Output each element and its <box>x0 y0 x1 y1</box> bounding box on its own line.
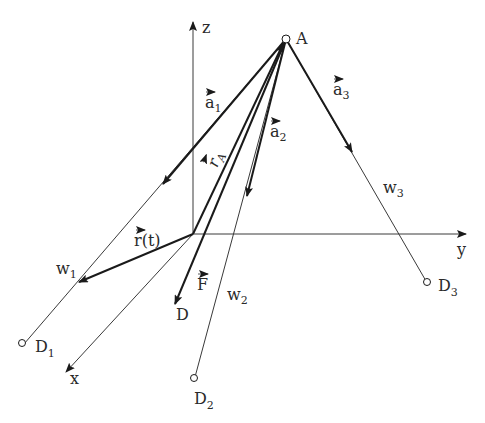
labels: z y x A D D1 D2 D3 a1 a2 a3 rA r(t) F <box>35 18 466 412</box>
svg-text:a1: a1 <box>205 93 222 115</box>
cable-w2 <box>195 39 286 377</box>
x-axis-label: x <box>70 369 79 388</box>
point-D1-circle <box>19 340 26 347</box>
axes <box>66 22 466 372</box>
point-A-label: A <box>295 29 308 48</box>
point-D-label: D <box>176 305 189 324</box>
label-w2: w2 <box>227 285 248 307</box>
z-axis-label: z <box>202 18 210 37</box>
point-D2-label: D2 <box>194 389 214 412</box>
label-r-t: r(t) <box>134 230 161 250</box>
svg-text:a2: a2 <box>270 122 287 144</box>
cable-lines <box>24 39 426 377</box>
vector-F <box>175 39 286 304</box>
label-w3: w3 <box>383 178 404 200</box>
label-a2: a2 <box>270 121 287 144</box>
diagram-canvas: z y x A D D1 D2 D3 a1 a2 a3 rA r(t) F <box>0 0 485 423</box>
y-axis-label: y <box>456 240 466 259</box>
anchor-points <box>19 35 431 382</box>
svg-text:a3: a3 <box>333 80 350 102</box>
point-D3-label: D3 <box>438 276 458 299</box>
point-D1-label: D1 <box>35 337 55 360</box>
point-D2-circle <box>191 375 198 382</box>
vectors <box>79 39 352 304</box>
label-a3: a3 <box>333 79 350 102</box>
label-F: F <box>197 274 208 294</box>
svg-text:F: F <box>197 275 208 294</box>
svg-text:r(t): r(t) <box>134 231 161 250</box>
point-A-circle <box>282 35 290 43</box>
label-a1: a1 <box>205 92 222 115</box>
x-axis <box>66 234 193 372</box>
point-D3-circle <box>424 279 431 286</box>
label-w1: w1 <box>56 259 77 281</box>
